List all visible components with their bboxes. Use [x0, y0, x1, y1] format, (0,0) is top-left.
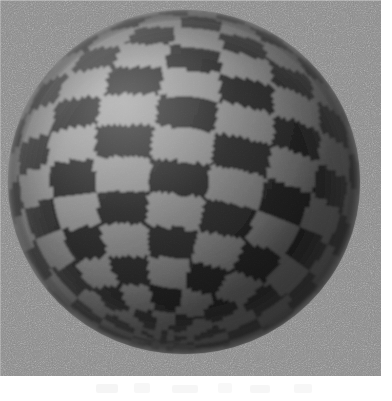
figure-root [0, 0, 392, 401]
margin-smudge [218, 383, 232, 393]
sphere-render-canvas [0, 0, 381, 376]
margin-bottom [0, 376, 392, 401]
image-plate [0, 0, 381, 376]
margin-smudge [96, 384, 118, 393]
checkerboard-sphere [7, 9, 361, 355]
margin-smudge [294, 384, 312, 393]
margin-right [381, 0, 392, 401]
margin-smudge [250, 385, 270, 393]
sphere-edge-feather [7, 9, 361, 355]
margin-smudge [134, 383, 150, 393]
margin-smudge [172, 385, 198, 393]
